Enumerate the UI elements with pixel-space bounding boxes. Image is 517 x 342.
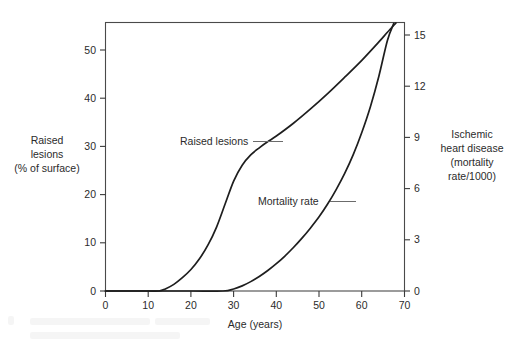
y-right-tick-15: 15 [414,29,426,41]
y-axis-left-title: Raised lesions (% of surface) [14,134,79,174]
y-left-tick-40: 40 [84,92,96,104]
y-right-tick-3: 3 [414,233,420,245]
x-tick-30: 30 [228,299,240,311]
x-tick-70: 70 [399,299,411,311]
y-right-tick-6: 6 [414,182,420,194]
x-tick-50: 50 [313,299,325,311]
y-left-tick-10: 10 [84,236,96,248]
x-tick-40: 40 [270,299,282,311]
annotation-raised-lesions: Raised lesions [180,135,283,147]
x-axis-ticks [106,291,405,297]
annotation-raised-lesions-label: Raised lesions [180,135,248,147]
y-axis-right-title: Ischemic heart disease (mortality rate/1… [440,128,503,182]
x-tick-60: 60 [356,299,368,311]
y-right-tick-0: 0 [414,285,420,297]
figure-container: 0 10 20 30 40 50 0 3 6 9 12 15 [0,0,517,342]
y-axis-left-labels: 0 10 20 30 40 50 [84,44,96,297]
y-left-tick-20: 20 [84,188,96,200]
x-axis-labels: 0 10 20 30 40 50 60 70 [103,299,411,311]
annotation-mortality-rate: Mortality rate [258,195,356,207]
y-right-title-line-4: rate/1000) [448,170,496,182]
annotation-mortality-rate-label: Mortality rate [258,195,319,207]
y-right-title-line-2: heart disease [440,142,503,154]
y-left-tick-30: 30 [84,140,96,152]
y-axis-right-ticks [405,35,411,291]
chart-canvas: 0 10 20 30 40 50 0 3 6 9 12 15 [0,0,517,342]
x-tick-10: 10 [142,299,154,311]
y-left-title-line-2: lesions [31,148,64,160]
x-tick-20: 20 [185,299,197,311]
y-left-tick-0: 0 [90,285,96,297]
x-axis-title: Age (years) [228,318,282,330]
y-axis-left-ticks [100,50,106,291]
y-left-tick-50: 50 [84,44,96,56]
y-left-title-line-1: Raised [31,134,64,146]
y-right-tick-9: 9 [414,131,420,143]
y-right-title-line-1: Ischemic [451,128,492,140]
y-right-tick-12: 12 [414,80,426,92]
y-left-title-line-3: (% of surface) [14,162,79,174]
y-axis-right-labels: 0 3 6 9 12 15 [414,29,426,297]
y-right-title-line-3: (mortality [450,156,494,168]
x-tick-0: 0 [103,299,109,311]
